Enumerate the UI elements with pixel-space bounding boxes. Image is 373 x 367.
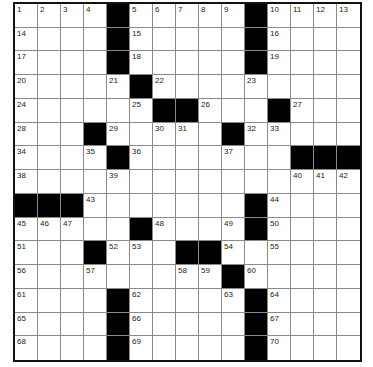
grid-cell[interactable]	[38, 75, 61, 99]
grid-cell[interactable]	[199, 75, 222, 99]
grid-cell[interactable]: 30	[153, 123, 176, 147]
grid-cell[interactable]: 58	[176, 265, 199, 289]
grid-cell[interactable]	[153, 194, 176, 218]
grid-cell[interactable]: 66	[130, 313, 153, 337]
grid-cell[interactable]: 44	[268, 194, 291, 218]
grid-cell[interactable]	[176, 51, 199, 75]
grid-cell[interactable]	[130, 194, 153, 218]
grid-cell[interactable]	[314, 289, 337, 313]
grid-cell[interactable]	[61, 123, 84, 147]
grid-cell[interactable]	[291, 241, 314, 265]
grid-cell[interactable]	[199, 170, 222, 194]
grid-cell[interactable]: 40	[291, 170, 314, 194]
grid-cell[interactable]	[245, 146, 268, 170]
grid-cell[interactable]	[222, 75, 245, 99]
grid-cell[interactable]	[222, 336, 245, 360]
grid-cell[interactable]: 38	[15, 170, 38, 194]
grid-cell[interactable]: 28	[15, 123, 38, 147]
grid-cell[interactable]	[153, 336, 176, 360]
grid-cell[interactable]	[337, 265, 360, 289]
grid-cell[interactable]: 18	[130, 51, 153, 75]
grid-cell[interactable]: 65	[15, 313, 38, 337]
grid-cell[interactable]: 61	[15, 289, 38, 313]
grid-cell[interactable]: 3	[61, 4, 84, 28]
grid-cell[interactable]	[84, 170, 107, 194]
grid-cell[interactable]	[38, 99, 61, 123]
grid-cell[interactable]	[84, 336, 107, 360]
grid-cell[interactable]: 6	[153, 4, 176, 28]
grid-cell[interactable]	[176, 218, 199, 242]
grid-cell[interactable]	[314, 123, 337, 147]
grid-cell[interactable]	[61, 289, 84, 313]
grid-cell[interactable]: 22	[153, 75, 176, 99]
grid-cell[interactable]: 60	[245, 265, 268, 289]
grid-cell[interactable]	[314, 194, 337, 218]
grid-cell[interactable]	[107, 218, 130, 242]
grid-cell[interactable]	[222, 313, 245, 337]
grid-cell[interactable]	[130, 265, 153, 289]
grid-cell[interactable]: 7	[176, 4, 199, 28]
grid-cell[interactable]: 14	[15, 28, 38, 52]
grid-cell[interactable]: 68	[15, 336, 38, 360]
grid-cell[interactable]	[337, 289, 360, 313]
grid-cell[interactable]	[84, 99, 107, 123]
grid-cell[interactable]	[245, 170, 268, 194]
grid-cell[interactable]	[199, 194, 222, 218]
grid-cell[interactable]	[176, 146, 199, 170]
grid-cell[interactable]	[176, 194, 199, 218]
grid-cell[interactable]	[153, 265, 176, 289]
grid-cell[interactable]	[291, 28, 314, 52]
grid-cell[interactable]: 27	[291, 99, 314, 123]
grid-cell[interactable]	[291, 51, 314, 75]
grid-cell[interactable]	[222, 51, 245, 75]
grid-cell[interactable]	[84, 289, 107, 313]
grid-cell[interactable]	[291, 194, 314, 218]
grid-cell[interactable]: 67	[268, 313, 291, 337]
grid-cell[interactable]	[337, 28, 360, 52]
grid-cell[interactable]	[153, 28, 176, 52]
grid-cell[interactable]	[61, 28, 84, 52]
grid-cell[interactable]: 32	[245, 123, 268, 147]
grid-cell[interactable]	[337, 241, 360, 265]
grid-cell[interactable]: 53	[130, 241, 153, 265]
grid-cell[interactable]: 43	[84, 194, 107, 218]
grid-cell[interactable]: 37	[222, 146, 245, 170]
grid-cell[interactable]: 56	[15, 265, 38, 289]
grid-cell[interactable]: 33	[268, 123, 291, 147]
grid-cell[interactable]	[61, 146, 84, 170]
grid-cell[interactable]	[199, 123, 222, 147]
grid-cell[interactable]: 10	[268, 4, 291, 28]
grid-cell[interactable]	[176, 170, 199, 194]
grid-cell[interactable]	[291, 336, 314, 360]
grid-cell[interactable]: 46	[38, 218, 61, 242]
grid-cell[interactable]	[153, 146, 176, 170]
grid-cell[interactable]	[38, 123, 61, 147]
grid-cell[interactable]	[107, 99, 130, 123]
grid-cell[interactable]	[291, 289, 314, 313]
grid-cell[interactable]: 42	[337, 170, 360, 194]
grid-cell[interactable]	[38, 146, 61, 170]
grid-cell[interactable]: 62	[130, 289, 153, 313]
grid-cell[interactable]: 69	[130, 336, 153, 360]
grid-cell[interactable]	[268, 170, 291, 194]
grid-cell[interactable]: 12	[314, 4, 337, 28]
grid-cell[interactable]: 47	[61, 218, 84, 242]
grid-cell[interactable]: 59	[199, 265, 222, 289]
grid-cell[interactable]: 57	[84, 265, 107, 289]
grid-cell[interactable]: 34	[15, 146, 38, 170]
grid-cell[interactable]: 20	[15, 75, 38, 99]
grid-cell[interactable]	[291, 313, 314, 337]
grid-cell[interactable]	[38, 28, 61, 52]
grid-cell[interactable]	[291, 75, 314, 99]
grid-cell[interactable]	[38, 51, 61, 75]
grid-cell[interactable]	[199, 28, 222, 52]
grid-cell[interactable]: 25	[130, 99, 153, 123]
grid-cell[interactable]	[153, 289, 176, 313]
grid-cell[interactable]	[199, 313, 222, 337]
grid-cell[interactable]	[84, 218, 107, 242]
grid-cell[interactable]	[199, 146, 222, 170]
grid-cell[interactable]: 15	[130, 28, 153, 52]
grid-cell[interactable]: 16	[268, 28, 291, 52]
grid-cell[interactable]	[61, 265, 84, 289]
grid-cell[interactable]	[222, 99, 245, 123]
